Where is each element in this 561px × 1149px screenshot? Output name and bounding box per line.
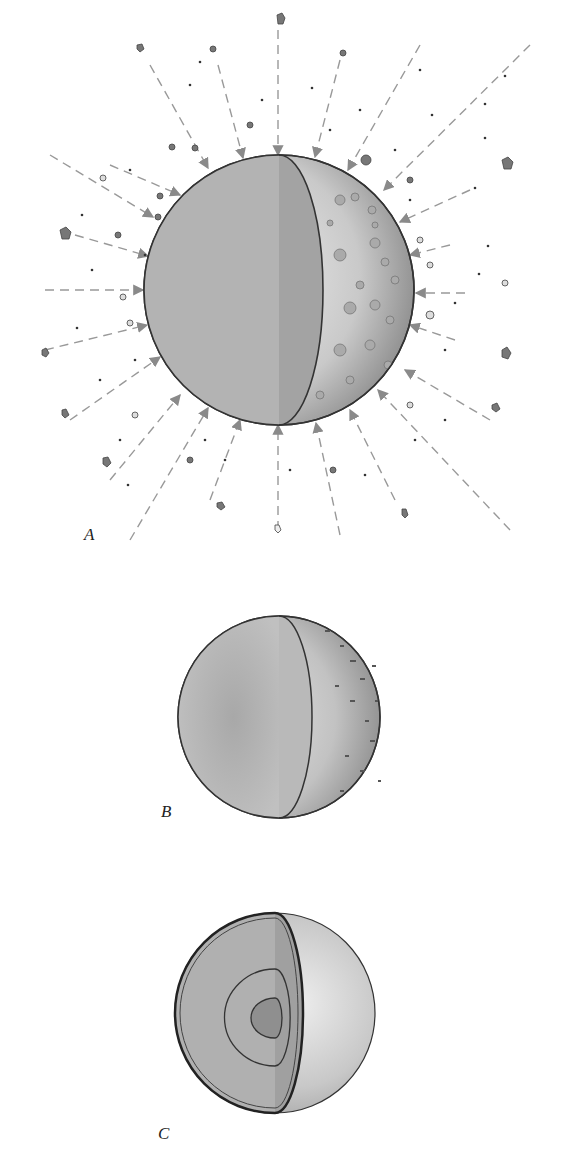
differentiated-planet-c [175, 913, 375, 1113]
panel-label-b: B [161, 802, 171, 822]
panel-a: A [0, 0, 561, 560]
panel-b: B [0, 590, 561, 840]
protoplanet-b [178, 616, 381, 818]
molten-protoplanet-diagram [0, 590, 561, 840]
panel-label-c: C [158, 1124, 169, 1144]
differentiated-planet-diagram [0, 880, 561, 1149]
protoplanet-a [144, 155, 414, 425]
panel-c: C [0, 880, 561, 1149]
accretion-diagram [0, 0, 561, 560]
panel-label-a: A [84, 525, 94, 545]
